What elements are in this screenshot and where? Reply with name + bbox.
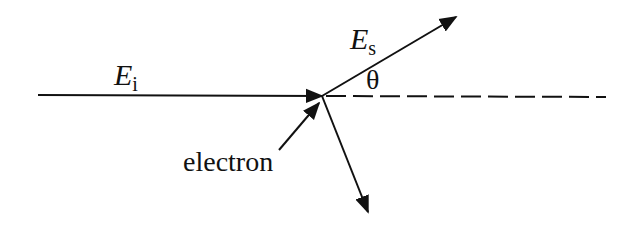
diagram-canvas <box>0 0 628 225</box>
incident-label: Ei <box>114 58 138 92</box>
scattered-wave-arrow <box>322 17 456 96</box>
electron-pointer-arrow <box>279 103 319 150</box>
recoil-electron-arrow <box>322 96 368 212</box>
reference-dashed-line <box>326 96 606 97</box>
scattered-label: Es <box>350 22 376 56</box>
electron-label: electron <box>183 146 273 178</box>
incident-wave-arrow <box>38 95 322 96</box>
angle-label: θ <box>366 64 379 96</box>
